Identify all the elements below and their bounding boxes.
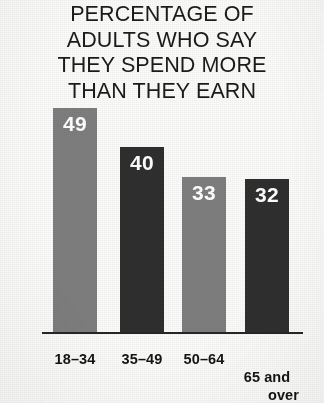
bar-value-35-49: 40 bbox=[120, 152, 164, 174]
bar-65-and-over: 32 bbox=[245, 179, 289, 333]
x-axis-label-65-and-over-line1: 65 and bbox=[244, 369, 291, 385]
bar-value-65-and-over: 32 bbox=[245, 184, 289, 206]
bar-50-64: 33 bbox=[182, 177, 226, 333]
x-axis-label-65-and-over-line2: over bbox=[228, 386, 306, 403]
bar-value-18-34: 49 bbox=[53, 113, 97, 135]
bar-18-34: 49 bbox=[53, 108, 97, 333]
x-axis-label-65-and-over: 65 and over bbox=[228, 350, 306, 403]
x-axis-baseline bbox=[42, 332, 303, 334]
plot-area: 49 40 33 32 18–34 35–49 50–64 65 and ove… bbox=[0, 0, 324, 403]
bar-value-50-64: 33 bbox=[182, 182, 226, 204]
bar-35-49: 40 bbox=[120, 147, 164, 333]
bar-chart-figure: PERCENTAGE OF ADULTS WHO SAY THEY SPEND … bbox=[0, 0, 324, 403]
